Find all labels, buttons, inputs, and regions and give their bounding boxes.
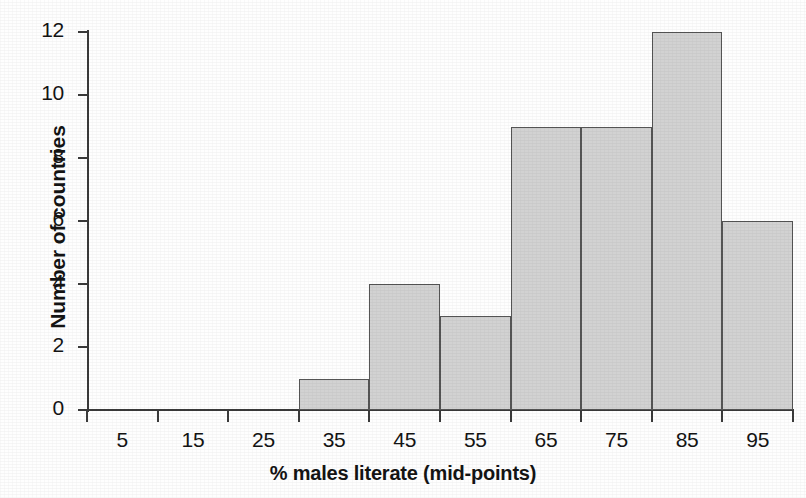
- x-tick-label: 45: [370, 428, 440, 452]
- histogram-bar: [511, 127, 582, 411]
- x-tick-mark: [157, 411, 159, 422]
- x-tick-label: 85: [652, 428, 722, 452]
- x-tick-mark: [651, 411, 653, 422]
- plot-area: [87, 32, 793, 410]
- x-tick-label: 55: [440, 428, 510, 452]
- histogram-bar: [299, 379, 370, 411]
- x-tick-label: 65: [511, 428, 581, 452]
- histogram-figure: Number of countries % males literate (mi…: [0, 0, 806, 498]
- histogram-bar: [440, 316, 511, 411]
- y-tick-mark: [78, 157, 87, 159]
- x-tick-label: 25: [229, 428, 299, 452]
- x-tick-label: 75: [582, 428, 652, 452]
- y-tick-label: 12: [4, 18, 64, 42]
- x-tick-mark: [721, 411, 723, 422]
- x-tick-label: 35: [299, 428, 369, 452]
- x-tick-mark: [368, 411, 370, 422]
- x-tick-mark: [792, 411, 794, 422]
- y-tick-mark: [78, 283, 87, 285]
- x-tick-label: 15: [158, 428, 228, 452]
- histogram-bar: [369, 284, 440, 410]
- x-tick-label: 95: [723, 428, 793, 452]
- y-tick-label: 4: [4, 270, 64, 294]
- x-tick-mark: [510, 411, 512, 422]
- x-tick-label: 5: [87, 428, 157, 452]
- y-tick-mark: [78, 220, 87, 222]
- x-tick-mark: [86, 411, 88, 422]
- x-tick-mark: [227, 411, 229, 422]
- x-tick-mark: [580, 411, 582, 422]
- x-axis-title: % males literate (mid-points): [0, 462, 806, 485]
- y-tick-label: 8: [4, 144, 64, 168]
- y-tick-mark: [78, 94, 87, 96]
- y-tick-label: 2: [4, 333, 64, 357]
- x-tick-mark: [439, 411, 441, 422]
- y-tick-mark: [78, 31, 87, 33]
- y-tick-label: 6: [4, 207, 64, 231]
- histogram-bar: [722, 221, 793, 410]
- y-tick-label: 10: [4, 81, 64, 105]
- x-tick-mark: [298, 411, 300, 422]
- histogram-bar: [581, 127, 652, 411]
- histogram-bar: [652, 32, 723, 410]
- y-tick-label: 0: [4, 396, 64, 420]
- y-tick-mark: [78, 346, 87, 348]
